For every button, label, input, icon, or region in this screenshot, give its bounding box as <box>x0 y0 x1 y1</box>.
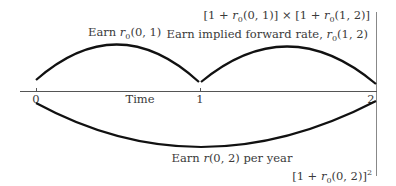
tick-label-1: 1 <box>196 92 203 106</box>
label-earn-forward-1-2: Earn implied forward rate, r0(1, 2) <box>167 27 368 43</box>
forward-rate-diagram: 0 Time 1 2 Earn r0(0, 1) Earn implied fo… <box>0 0 396 186</box>
arc-spot-0-2 <box>36 101 376 147</box>
label-earn-spot-0-2: Earn r(0, 2) per year <box>172 151 293 165</box>
arc-spot-0-1 <box>36 44 199 82</box>
result-spot-squared: [1 + r0(0, 2)]2 <box>292 168 372 185</box>
result-forward-product: [1 + r0(0, 1)] × [1 + r0(1, 2)] <box>204 8 370 24</box>
label-earn-spot-0-1: Earn r0(0, 1) <box>88 25 161 41</box>
diagram-canvas: 0 Time 1 2 Earn r0(0, 1) Earn implied fo… <box>0 0 396 186</box>
arc-forward-1-2 <box>201 46 376 84</box>
axis-label-time: Time <box>125 92 154 106</box>
